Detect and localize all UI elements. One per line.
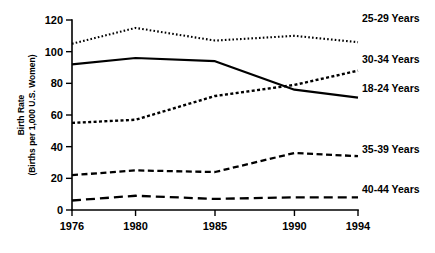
series-line-30-34-years bbox=[72, 71, 358, 123]
y-tick-label: 80 bbox=[51, 77, 63, 89]
series-line-40-44-years bbox=[72, 196, 358, 201]
series-line-18-24-years bbox=[72, 58, 358, 98]
x-tick-label: 1990 bbox=[282, 220, 306, 232]
y-tick-label: 60 bbox=[51, 109, 63, 121]
series-label-40-44-years: 40-44 Years bbox=[362, 183, 420, 195]
chart-canvas: Birth Rate (Births per 1,000 U.S. Women)… bbox=[0, 0, 435, 253]
y-tick-label: 100 bbox=[45, 46, 63, 58]
series-line-35-39-years bbox=[72, 153, 358, 175]
x-tick-label: 1980 bbox=[123, 220, 147, 232]
series-label-25-29-years: 25-29 Years bbox=[362, 12, 420, 24]
y-axis-title-line1: Birth Rate bbox=[16, 94, 26, 135]
series-line-25-29-years bbox=[72, 28, 358, 44]
series-label-18-24-years: 18-24 Years bbox=[362, 82, 420, 94]
x-tick-group: 19761980198519901994 bbox=[60, 210, 371, 232]
y-tick-label: 40 bbox=[51, 141, 63, 153]
x-axis: 19761980198519901994 bbox=[60, 210, 371, 232]
series-label-35-39-years: 35-39 Years bbox=[362, 143, 420, 155]
y-tick-label: 0 bbox=[57, 204, 63, 216]
series-group bbox=[72, 28, 358, 201]
series-label-30-34-years: 30-34 Years bbox=[362, 53, 420, 65]
y-tick-label: 120 bbox=[45, 14, 63, 26]
y-axis-title-line2: (Births per 1,000 U.S. Women) bbox=[27, 54, 37, 175]
x-tick-label: 1976 bbox=[60, 220, 84, 232]
series-label-group: 25-29 Years30-34 Years18-24 Years35-39 Y… bbox=[362, 12, 420, 195]
x-tick-label: 1985 bbox=[203, 220, 227, 232]
y-axis-title-group: Birth Rate (Births per 1,000 U.S. Women) bbox=[16, 54, 37, 175]
birth-rate-line-chart: Birth Rate (Births per 1,000 U.S. Women)… bbox=[0, 0, 435, 253]
x-tick-label: 1994 bbox=[346, 220, 371, 232]
y-axis: 020406080100120 bbox=[45, 14, 72, 216]
y-tick-label: 20 bbox=[51, 172, 63, 184]
y-tick-group: 020406080100120 bbox=[45, 14, 72, 216]
